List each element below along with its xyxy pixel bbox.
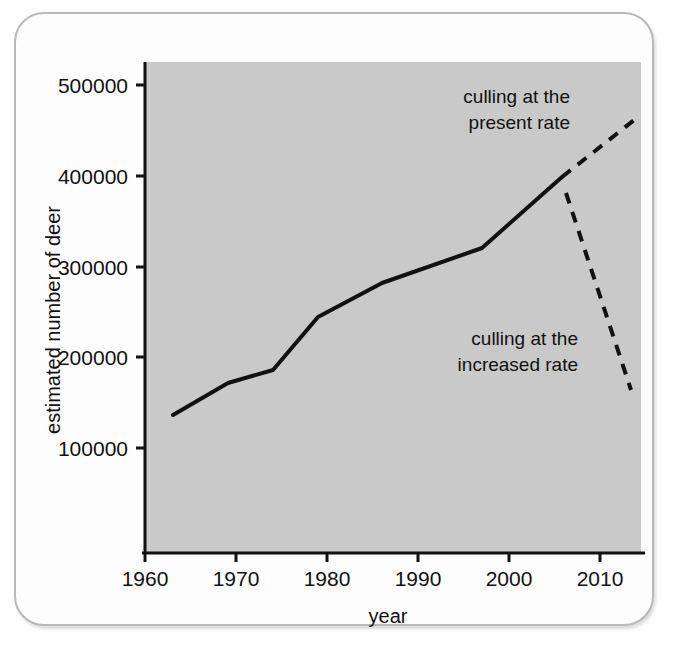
x-axis-title: year [369, 605, 408, 627]
x-tick-label-1980: 1980 [304, 567, 351, 590]
annotation-present-rate-line2: present rate [469, 112, 570, 133]
annotation-increased-rate-line1: culling at the [471, 328, 578, 349]
x-tick-label-1970: 1970 [213, 567, 260, 590]
annotation-increased-rate-line2: increased rate [458, 354, 578, 375]
y-tick-label-200000: 200000 [58, 346, 128, 369]
annotation-present-rate-line1: culling at the [463, 86, 570, 107]
x-tick-label-2000: 2000 [486, 567, 533, 590]
y-tick-label-300000: 300000 [58, 256, 128, 279]
deer-population-line-chart: 500000 400000 300000 200000 100000 1960 … [0, 0, 673, 648]
x-tick-label-1990: 1990 [395, 567, 442, 590]
y-tick-label-500000: 500000 [58, 74, 128, 97]
y-tick-label-100000: 100000 [58, 437, 128, 460]
y-axis-title: estimated number of deer [42, 206, 64, 434]
plot-area-background [145, 62, 641, 553]
y-tick-label-400000: 400000 [58, 165, 128, 188]
figure-container: 500000 400000 300000 200000 100000 1960 … [0, 0, 673, 648]
x-tick-label-2010: 2010 [577, 567, 624, 590]
x-tick-label-1960: 1960 [122, 567, 169, 590]
